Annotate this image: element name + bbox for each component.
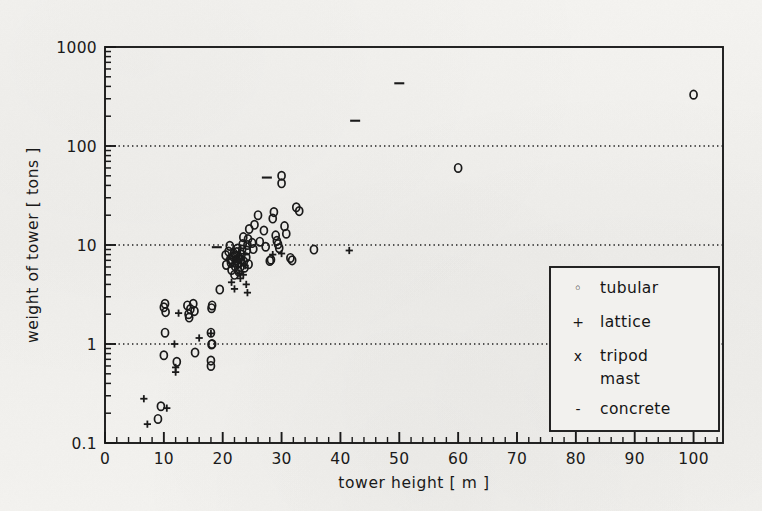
x-tick-label-50: 50 bbox=[389, 450, 409, 468]
x-axis-ticks bbox=[105, 432, 717, 443]
data-point-+ bbox=[140, 395, 147, 402]
legend-label-mast: mast bbox=[600, 370, 640, 388]
x-tick-label-20: 20 bbox=[213, 450, 233, 468]
legend-label-concrete: concrete bbox=[600, 400, 671, 418]
y-tick-label-10: 10 bbox=[77, 237, 97, 255]
legend-label-lattice: lattice bbox=[600, 313, 651, 331]
y-tick-label-1: 1 bbox=[87, 336, 97, 354]
legend-label-tubular: tubular bbox=[600, 279, 659, 297]
x-tick-label-70: 70 bbox=[507, 450, 527, 468]
data-point-+ bbox=[175, 310, 182, 317]
data-point-o bbox=[251, 221, 258, 229]
y-tick-label-100: 100 bbox=[67, 138, 98, 156]
x-tick-label-90: 90 bbox=[625, 450, 645, 468]
data-point-o bbox=[260, 226, 267, 234]
data-point-o bbox=[173, 358, 180, 366]
x-axis-title: tower height [ m ] bbox=[338, 474, 489, 492]
data-point-+ bbox=[171, 340, 178, 347]
x-tick-label-0: 0 bbox=[100, 450, 110, 468]
x-tick-label-30: 30 bbox=[271, 450, 291, 468]
data-point-o bbox=[192, 348, 199, 356]
x-tick-label-40: 40 bbox=[330, 450, 350, 468]
dash-marker: - bbox=[575, 401, 580, 417]
data-point-+ bbox=[278, 250, 285, 257]
data-point-o bbox=[310, 245, 317, 253]
data-point-o bbox=[262, 243, 269, 251]
y-tick-label-1000: 1000 bbox=[56, 39, 97, 57]
x-tick-label-10: 10 bbox=[154, 450, 174, 468]
data-point-o bbox=[255, 211, 262, 219]
data-point-o bbox=[226, 242, 233, 250]
data-point-+ bbox=[172, 369, 179, 376]
data-point-o bbox=[455, 164, 462, 172]
x-tick-label-80: 80 bbox=[566, 450, 586, 468]
plus-marker: + bbox=[572, 314, 584, 330]
data-point-o bbox=[289, 256, 296, 264]
data-point-+ bbox=[144, 421, 151, 428]
x-tick-label-60: 60 bbox=[448, 450, 468, 468]
data-point-o bbox=[216, 285, 223, 293]
data-point-+ bbox=[346, 247, 353, 254]
data-point-+ bbox=[244, 289, 251, 296]
series-lattice bbox=[140, 247, 353, 428]
cross-marker: x bbox=[574, 348, 582, 364]
series-concrete bbox=[212, 83, 404, 247]
data-point-+ bbox=[243, 281, 250, 288]
legend: ◦tubular+latticextripodmast-concrete bbox=[550, 267, 719, 431]
y-axis-title: weight of tower [ tons ] bbox=[24, 147, 42, 343]
data-point-o bbox=[690, 90, 697, 98]
data-point-+ bbox=[231, 285, 238, 292]
y-tick-label-0.1: 0.1 bbox=[71, 435, 97, 453]
data-point-+ bbox=[196, 334, 203, 341]
x-axis-tick-labels: 0102030405060708090100 bbox=[100, 450, 709, 468]
data-point-o bbox=[162, 329, 169, 337]
y-axis-tick-labels: 0.11101001000 bbox=[56, 39, 97, 453]
data-point-o bbox=[207, 356, 214, 364]
y-axis-ticks bbox=[105, 47, 116, 443]
x-tick-label-100: 100 bbox=[678, 450, 709, 468]
chart-svg: 0.11101001000 0102030405060708090100 tow… bbox=[0, 0, 762, 511]
data-point-o bbox=[157, 402, 164, 410]
legend-label-tripod: tripod bbox=[600, 347, 648, 365]
data-point-o bbox=[154, 415, 161, 423]
scatter-chart-figure: 0.11101001000 0102030405060708090100 tow… bbox=[0, 0, 762, 511]
data-point-o bbox=[160, 351, 167, 359]
circle-marker: ◦ bbox=[574, 280, 582, 296]
